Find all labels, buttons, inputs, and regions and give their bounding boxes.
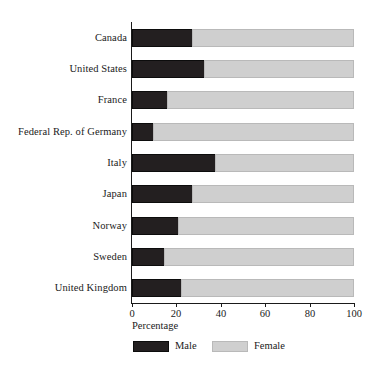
- x-axis-title: Percentage: [132, 320, 178, 332]
- bar-segment-male: [132, 29, 193, 47]
- bar-row: [132, 29, 354, 47]
- bar-row: [132, 91, 354, 109]
- bar-segment-male: [132, 154, 216, 172]
- bar-row: [132, 123, 354, 141]
- bar-segment-female: [215, 154, 354, 172]
- x-axis-tick-mark: [354, 303, 355, 307]
- x-axis-tick-label: 40: [201, 308, 241, 320]
- bar-segment-male: [132, 185, 193, 203]
- legend-label: Male: [175, 340, 197, 352]
- bar-segment-female: [204, 60, 354, 78]
- bar-segment-female: [181, 279, 354, 297]
- y-axis-tick-label: Federal Rep. of Germany: [3, 126, 127, 138]
- bar-row: [132, 217, 354, 235]
- bar-row: [132, 154, 354, 172]
- y-axis-tick-label: France: [3, 94, 127, 106]
- bar-segment-female: [153, 123, 354, 141]
- x-axis-tick-mark: [176, 303, 177, 307]
- bar-segment-male: [132, 60, 205, 78]
- x-axis-tick-mark: [132, 303, 133, 307]
- y-axis-tick-label: Japan: [3, 188, 127, 200]
- y-axis-tick-label: United Kingdom: [3, 282, 127, 294]
- bar-segment-male: [132, 123, 154, 141]
- bar-segment-male: [132, 279, 182, 297]
- y-axis-category-labels: CanadaUnited StatesFranceFederal Rep. of…: [0, 22, 127, 304]
- legend-swatch-male-icon: [133, 341, 169, 352]
- bar-segment-female: [167, 91, 354, 109]
- x-axis-tick-label: 20: [156, 308, 196, 320]
- legend-swatch-female-icon: [212, 341, 248, 352]
- y-axis-tick-label: United States: [3, 63, 127, 75]
- bar-row: [132, 279, 354, 297]
- x-axis-tick-label: 100: [334, 308, 374, 320]
- y-axis-tick-label: Norway: [3, 220, 127, 232]
- bar-segment-male: [132, 217, 179, 235]
- stacked-bar-chart: CanadaUnited StatesFranceFederal Rep. of…: [0, 0, 376, 368]
- bar-segment-male: [132, 91, 168, 109]
- legend-item-female[interactable]: Female: [212, 338, 285, 354]
- x-axis-tick-mark: [265, 303, 266, 307]
- bar-row: [132, 248, 354, 266]
- bar-segment-male: [132, 248, 165, 266]
- bar-row: [132, 60, 354, 78]
- bar-segment-female: [192, 185, 354, 203]
- bar-segment-female: [164, 248, 354, 266]
- bar-segment-female: [178, 217, 354, 235]
- plot-area: [132, 22, 354, 304]
- y-axis-tick-label: Canada: [3, 32, 127, 44]
- bar-segment-female: [192, 29, 354, 47]
- x-axis-line: [131, 303, 355, 304]
- bar-row: [132, 185, 354, 203]
- y-axis-tick-label: Italy: [3, 157, 127, 169]
- chart-legend: MaleFemale: [0, 338, 376, 356]
- x-axis-tick-mark: [221, 303, 222, 307]
- x-axis-tick-label: 0: [112, 308, 152, 320]
- legend-item-male[interactable]: Male: [133, 338, 197, 354]
- y-axis-tick-label: Sweden: [3, 251, 127, 263]
- x-axis-tick-mark: [310, 303, 311, 307]
- legend-label: Female: [254, 340, 285, 352]
- x-axis-tick-label: 60: [245, 308, 285, 320]
- x-axis-tick-label: 80: [290, 308, 330, 320]
